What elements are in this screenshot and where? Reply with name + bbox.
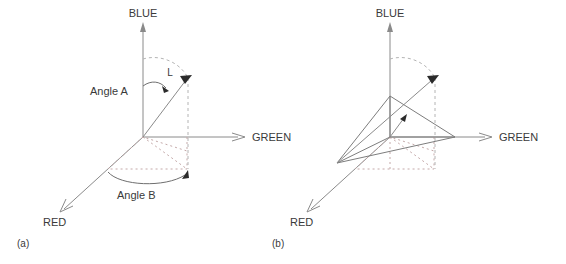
green-axis-a xyxy=(143,133,245,141)
triangle-red-leg-b xyxy=(337,137,390,163)
blue-axis-label-b: BLUE xyxy=(376,7,405,19)
blue-axis-arrowhead-a xyxy=(140,22,146,32)
vector-long-line-b xyxy=(337,80,432,163)
construction-lines-b xyxy=(390,58,435,169)
base-plane-projection-a xyxy=(108,137,187,169)
red-axis-arrowhead-a xyxy=(60,199,73,212)
base-plane-diagonal-a xyxy=(143,137,187,169)
vector-l-a xyxy=(143,75,192,137)
angle-b-arc-path xyxy=(108,172,185,184)
panel-b: BLUE GREEN RED (b) xyxy=(272,7,538,249)
base-plane-outline-a xyxy=(108,137,187,169)
base-plane-outline-b xyxy=(355,137,434,169)
angle-a-arc xyxy=(143,82,169,93)
blue-axis-label-a: BLUE xyxy=(129,7,158,19)
angle-b-arc xyxy=(108,170,189,184)
angle-a-label: Angle A xyxy=(90,85,129,97)
red-axis-label-b: RED xyxy=(290,216,313,228)
construction-lines-a xyxy=(143,58,188,169)
panel-a: BLUE GREEN RED L Angle A Angle B (a) xyxy=(17,7,291,249)
red-axis-arrowhead-b xyxy=(307,199,320,212)
blue-axis-arrowhead-b xyxy=(387,22,393,32)
vector-long-b xyxy=(337,75,439,163)
top-arc-dashed-b xyxy=(390,58,435,78)
vector-l-label-a: L xyxy=(167,67,173,78)
panel-b-caption: (b) xyxy=(272,238,284,249)
diagram-canvas: BLUE GREEN RED L Angle A Angle B (a) xyxy=(0,0,566,264)
green-axis-label-a: GREEN xyxy=(252,131,291,143)
angle-b-label: Angle B xyxy=(117,189,156,201)
panel-a-caption: (a) xyxy=(17,238,29,249)
blue-axis-a xyxy=(140,22,146,137)
red-axis-label-a: RED xyxy=(43,216,66,228)
vector-short-b xyxy=(390,114,407,137)
vector-l-arrowhead-a xyxy=(180,75,192,84)
top-arc-dashed-a xyxy=(143,58,188,78)
vector-short-line-b xyxy=(390,118,404,137)
vector-short-arrowhead-b xyxy=(400,114,407,122)
green-axis-label-b: GREEN xyxy=(499,131,538,143)
angle-b-arrowhead xyxy=(182,170,189,179)
figure-root: BLUE GREEN RED L Angle A Angle B (a) xyxy=(0,0,566,264)
base-plane-diagonal-b xyxy=(390,137,434,169)
base-plane-projection-b xyxy=(355,137,434,169)
